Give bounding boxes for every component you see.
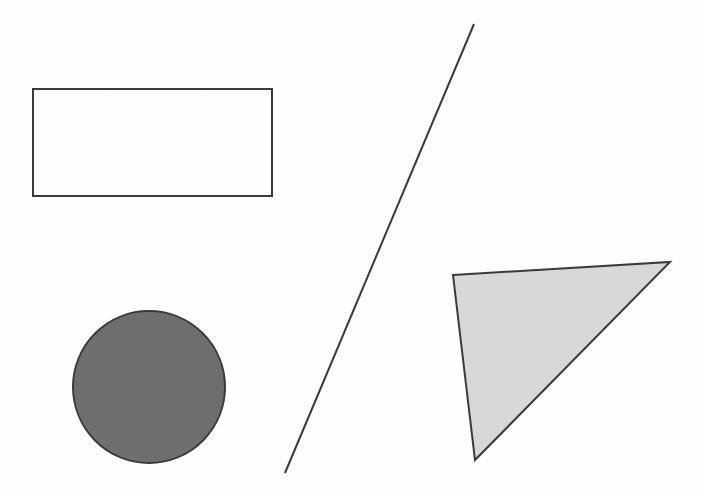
triangle-shape <box>453 262 670 460</box>
diagonal-line-shape <box>285 24 474 473</box>
figure-canvas <box>0 0 704 496</box>
shapes-svg <box>0 0 704 496</box>
rectangle-shape <box>33 89 272 196</box>
circle-shape <box>73 311 225 463</box>
